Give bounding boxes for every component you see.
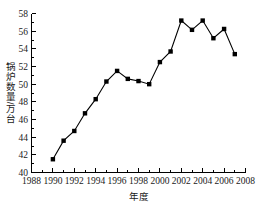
- data-point-marker: [94, 97, 98, 101]
- y-tick-label: 50: [19, 80, 29, 90]
- y-tick-label: 58: [19, 9, 29, 19]
- data-point-marker: [72, 129, 76, 133]
- data-point-marker: [179, 18, 183, 22]
- data-point-marker: [126, 77, 130, 81]
- data-point-marker: [136, 79, 140, 83]
- data-point-marker: [83, 111, 87, 115]
- series-line: [53, 21, 235, 160]
- data-point-marker: [233, 52, 237, 56]
- data-series: [51, 18, 237, 161]
- x-tick-label: 1992: [65, 176, 84, 186]
- y-tick-label: 56: [19, 27, 29, 37]
- data-point-marker: [51, 157, 55, 161]
- x-tick-label: 2008: [236, 176, 255, 186]
- data-point-marker: [168, 49, 172, 53]
- x-axis-tick-labels: 1988199019921994199619982000200220042006…: [22, 176, 255, 186]
- y-tick-label: 44: [19, 133, 29, 143]
- x-tick-label: 1998: [129, 176, 148, 186]
- y-tick-label: 54: [19, 44, 29, 54]
- y-tick-label: 48: [19, 97, 29, 107]
- y-tick-label: 46: [19, 115, 29, 125]
- data-point-marker: [158, 60, 162, 64]
- data-point-marker: [61, 139, 65, 143]
- chart-container: 1988199019921994199619982000200220042006…: [0, 0, 256, 209]
- data-point-marker: [147, 82, 151, 86]
- x-axis-ticks: [32, 168, 246, 173]
- y-axis-tick-labels: 40424446485052545658: [19, 9, 29, 178]
- data-point-marker: [104, 79, 108, 83]
- data-point-marker: [211, 36, 215, 40]
- x-tick-label: 2000: [150, 176, 169, 186]
- x-tick-label: 1994: [86, 176, 105, 186]
- x-tick-label: 2004: [193, 176, 212, 186]
- data-point-marker: [201, 18, 205, 22]
- data-point-marker: [115, 69, 119, 73]
- x-tick-label: 1996: [108, 176, 127, 186]
- y-tick-label: 40: [19, 168, 29, 178]
- data-point-marker: [222, 27, 226, 31]
- y-axis-title: 锅炉数量/万台: [5, 62, 16, 125]
- x-tick-label: 1990: [43, 176, 62, 186]
- y-tick-label: 52: [19, 62, 29, 72]
- x-axis-title: 年度: [129, 191, 149, 202]
- y-tick-label: 42: [19, 150, 29, 160]
- x-tick-label: 2002: [172, 176, 191, 186]
- line-chart: 1988199019921994199619982000200220042006…: [0, 0, 256, 209]
- x-tick-label: 2006: [215, 176, 234, 186]
- data-point-marker: [190, 28, 194, 32]
- y-axis-ticks: [32, 14, 37, 173]
